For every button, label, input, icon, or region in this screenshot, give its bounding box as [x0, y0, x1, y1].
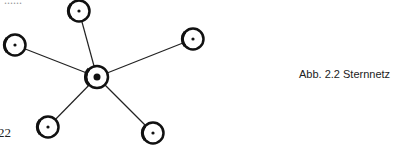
page-number: 22: [0, 125, 11, 141]
node-left: [4, 35, 25, 56]
node-bottom-right: [142, 123, 163, 144]
hub-node: [86, 66, 108, 88]
link-right: [97, 39, 193, 77]
node-right: [182, 29, 203, 50]
node-top: [68, 1, 89, 22]
figure-caption: Abb. 2.2 Sternnetz: [299, 68, 390, 80]
node-bottom-left: [37, 117, 58, 138]
link-left: [15, 45, 97, 77]
star-network-diagram: [0, 0, 230, 151]
